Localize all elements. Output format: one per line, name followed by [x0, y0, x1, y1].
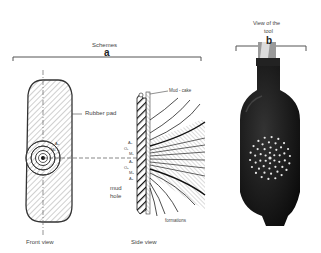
- electrode-dot: [284, 159, 286, 161]
- rubber-pad-label: Rubber pad: [85, 110, 116, 116]
- mud-label: mud: [110, 185, 122, 191]
- electrode-dot: [270, 173, 272, 175]
- electrode-dot: [249, 159, 251, 161]
- electrode-dot: [251, 166, 253, 168]
- front-view-caption: Front view: [26, 239, 54, 245]
- electrode-dot: [283, 152, 285, 154]
- electrode-dot: [289, 155, 291, 157]
- electrode-label: M₁: [129, 151, 134, 156]
- electrode-dot: [265, 154, 267, 156]
- electrode-dot: [280, 174, 282, 176]
- electrode-dot: [273, 154, 275, 156]
- hole-label: hole: [110, 193, 121, 199]
- electrode-dot: [269, 152, 271, 154]
- electrode-dot: [252, 145, 254, 147]
- electrode-dot: [268, 167, 270, 169]
- electrode-dot: [283, 142, 285, 144]
- electrode-dot: [274, 142, 276, 144]
- electrode-dot: [260, 153, 262, 155]
- electrode-dot: [261, 143, 263, 145]
- electrode-dot: [278, 161, 280, 163]
- panel-b-title-line1: View of the: [253, 20, 280, 26]
- side-view: [137, 91, 205, 216]
- electrode-dot: [265, 160, 267, 162]
- electrode-dot: [268, 141, 270, 143]
- electrode-dot: [254, 154, 256, 156]
- electrode-dot: [263, 148, 265, 150]
- electrode-dot: [271, 136, 273, 138]
- electrode-dot: [258, 168, 260, 170]
- panel-b-letter: b: [266, 35, 272, 46]
- electrode-dot: [285, 169, 287, 171]
- mudcake-label: Mud - cake: [169, 88, 191, 93]
- electrode-dot: [281, 166, 283, 168]
- electrode-dot: [267, 178, 269, 180]
- electrode-label: A₂: [129, 176, 133, 181]
- electrode-dot: [274, 166, 276, 168]
- electrode-dot: [263, 165, 265, 167]
- electrode-dot: [273, 159, 275, 161]
- electrode-dot: [255, 161, 257, 163]
- formations-label: formations: [165, 218, 186, 223]
- electrode-dot: [277, 138, 279, 140]
- svg-text:A₀: A₀: [55, 141, 60, 146]
- electrode-dot: [261, 176, 263, 178]
- electrode-dot: [280, 146, 282, 148]
- electrode-dot: [264, 137, 266, 139]
- svg-text:M₁: M₁: [51, 147, 56, 152]
- panel-a-letter: a: [104, 47, 110, 58]
- panel-b-title-line2: tool: [264, 28, 273, 34]
- front-view-pad: A₀ M₁: [26, 70, 140, 236]
- electrode-dot: [275, 149, 277, 151]
- electrode-dot: [263, 172, 265, 174]
- electrode-dot: [288, 162, 290, 164]
- figure-canvas: A₀ M₁: [0, 0, 321, 253]
- electrode-label: O₁: [124, 146, 128, 151]
- electrode-dot: [257, 140, 259, 142]
- electrode-dot: [268, 156, 271, 159]
- electrode-dot: [255, 172, 257, 174]
- electrode-dot: [287, 148, 289, 150]
- electrode-dot: [250, 152, 252, 154]
- electrode-dot: [257, 148, 259, 150]
- electrode-label: O₂: [124, 165, 129, 170]
- electrode-label: M₂: [129, 170, 134, 175]
- electrode-label: A₁: [129, 159, 133, 164]
- electrode-dot: [276, 171, 278, 173]
- electrode-dot: [269, 146, 271, 148]
- electrode-dot: [274, 177, 276, 179]
- electrode-dot: [269, 162, 271, 164]
- tool-photo: [240, 42, 300, 226]
- side-view-caption: Side view: [131, 239, 157, 245]
- electrode-dot: [259, 160, 261, 162]
- electrode-dot: [279, 154, 281, 156]
- electrode-label: A₀: [128, 140, 132, 145]
